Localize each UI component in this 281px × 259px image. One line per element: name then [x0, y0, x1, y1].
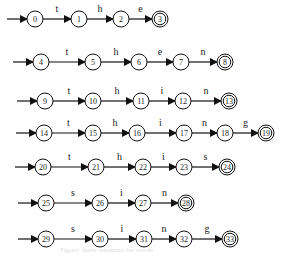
transition-label: n	[162, 187, 167, 198]
transition-label: s	[71, 187, 75, 198]
automaton-sing: 29s30i31n32g33	[18, 223, 238, 247]
state-label: 27	[139, 199, 147, 208]
transition-label: g	[243, 117, 248, 128]
state-label: 33	[226, 235, 234, 244]
state-label: 14	[40, 129, 48, 138]
transition-label: i	[121, 223, 124, 234]
state-label: 8	[223, 58, 227, 67]
automaton-this: 20t21h22i23s24	[15, 151, 235, 175]
transition-label: i	[162, 151, 165, 162]
state-label: 4	[39, 58, 43, 67]
state-label: 29	[42, 235, 50, 244]
transition-label: t	[68, 85, 71, 96]
transition-label: h	[115, 85, 120, 96]
transition-label: h	[117, 151, 122, 162]
automaton-then: 4t5h6e7n8	[13, 46, 233, 70]
state-label: 19	[262, 129, 270, 138]
transition-label: n	[201, 46, 206, 57]
transition-label: t	[66, 46, 69, 57]
state-label: 22	[139, 163, 147, 172]
state-label: 1	[77, 15, 81, 24]
transition-label: s	[204, 151, 208, 162]
automaton-thing: 14t15h16i17n18g19	[16, 117, 274, 141]
state-label: 26	[96, 199, 104, 208]
transition-label: i	[159, 117, 162, 128]
automaton-sin: 25s26i27n28	[18, 187, 194, 211]
state-label: 17	[180, 129, 188, 138]
automata-diagram: 0t1h2e34t5h6e7n89t10h11i12n1314t15h16i17…	[0, 0, 281, 259]
transition-label: i	[120, 187, 123, 198]
transition-label: h	[98, 3, 103, 14]
state-label: 28	[182, 199, 190, 208]
transition-label: s	[71, 223, 75, 234]
automaton-the: 0t1h2e3	[7, 3, 168, 27]
state-label: 31	[140, 235, 148, 244]
state-label: 13	[225, 97, 233, 106]
state-label: 16	[133, 129, 141, 138]
automaton-thin: 9t10h11i12n13	[17, 85, 237, 109]
state-label: 15	[89, 129, 97, 138]
transition-label: e	[138, 3, 143, 14]
figure-caption: Figure: finite automata for words	[60, 246, 153, 254]
state-label: 3	[158, 15, 162, 24]
state-label: 12	[179, 97, 187, 106]
state-label: 23	[180, 163, 188, 172]
state-label: 18	[221, 129, 229, 138]
state-label: 11	[137, 97, 145, 106]
state-label: 32	[180, 235, 188, 244]
state-label: 9	[43, 97, 47, 106]
state-label: 5	[91, 58, 95, 67]
transition-label: t	[56, 3, 59, 14]
state-label: 21	[92, 163, 100, 172]
transition-label: n	[202, 117, 207, 128]
transition-label: e	[158, 46, 163, 57]
transition-label: n	[162, 223, 167, 234]
state-label: 6	[137, 58, 141, 67]
transition-label: n	[204, 85, 209, 96]
transition-label: g	[205, 223, 210, 234]
state-label: 10	[89, 97, 97, 106]
state-label: 0	[33, 15, 37, 24]
state-label: 30	[96, 235, 104, 244]
state-label: 20	[39, 163, 47, 172]
transition-label: h	[113, 117, 118, 128]
state-label: 2	[119, 15, 123, 24]
state-label: 24	[223, 163, 231, 172]
transition-label: i	[161, 85, 164, 96]
transition-label: t	[67, 117, 70, 128]
transition-label: t	[68, 151, 71, 162]
state-label: 7	[179, 58, 183, 67]
transition-label: h	[114, 46, 119, 57]
state-label: 25	[42, 199, 50, 208]
